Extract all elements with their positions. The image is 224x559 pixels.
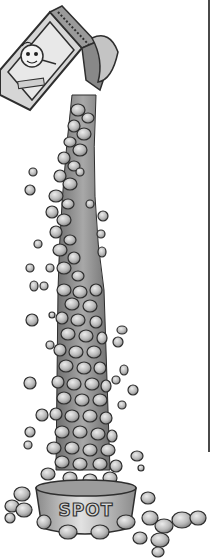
bowl-name-label: SPOT (59, 500, 114, 520)
pouring-kibble-drawing: SPOT (0, 0, 224, 559)
vertical-rule (208, 0, 210, 452)
illustration: SPOT (0, 0, 224, 559)
food-bag (0, 6, 118, 110)
